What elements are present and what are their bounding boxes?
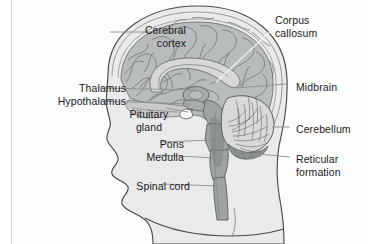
label-corpus-callosum: Corpus callosum (275, 14, 361, 39)
label-midbrain: Midbrain (296, 81, 366, 94)
label-thalamus: Thalamus (34, 82, 126, 95)
label-hypothalamus: Hypothalamus (14, 95, 126, 108)
label-cerebellum: Cerebellum (296, 123, 368, 136)
label-medulla: Medulla (110, 151, 184, 164)
label-cerebral-cortex: Cerebral cortex (94, 24, 186, 49)
spinal-cord (214, 177, 228, 220)
label-pons: Pons (118, 138, 184, 151)
label-pituitary-gland: Pituitary gland (118, 108, 180, 133)
label-spinal-cord: Spinal cord (100, 180, 190, 193)
label-reticular-formation: Reticular formation (296, 153, 368, 178)
